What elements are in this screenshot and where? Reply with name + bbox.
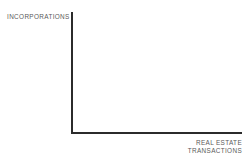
x-axis-title-line-1: REAL ESTATE	[188, 139, 242, 147]
chart-figure: INCORPORATIONS REAL ESTATE TRANSACTIONS	[0, 0, 249, 162]
x-axis-line	[71, 132, 242, 134]
y-axis-line	[71, 12, 73, 134]
x-axis-title-line-2: TRANSACTIONS	[188, 147, 242, 155]
x-axis-title: REAL ESTATE TRANSACTIONS	[188, 139, 242, 155]
y-axis-title: INCORPORATIONS	[7, 13, 70, 21]
